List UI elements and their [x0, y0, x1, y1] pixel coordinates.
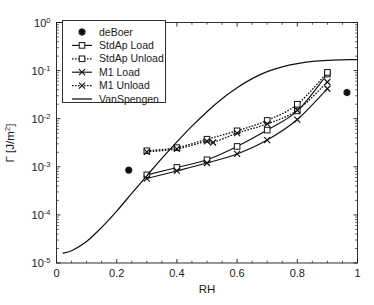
chart-canvas: 00.20.40.60.81 10-510-410-310-210-1100 R…	[0, 0, 374, 305]
data-point-marker	[294, 117, 300, 123]
data-point-marker	[125, 167, 132, 174]
data-point-marker	[79, 29, 86, 36]
y-axis-tick-labels: 10-510-410-310-210-1100	[32, 15, 51, 269]
data-point-marker	[79, 43, 85, 49]
data-point-marker	[234, 151, 240, 157]
x-tick-label: 0.2	[109, 267, 124, 279]
y-tick-label: 10-2	[32, 111, 51, 125]
legend-label: VanSpengen	[99, 93, 159, 105]
data-point-marker	[343, 89, 350, 96]
legend-label: deBoer	[99, 26, 133, 38]
chart-figure: 00.20.40.60.81 10-510-410-310-210-1100 R…	[0, 0, 374, 305]
data-point-marker	[324, 86, 330, 92]
x-tick-label: 0	[53, 267, 59, 279]
y-tick-label: 10-3	[32, 159, 51, 173]
data-point-marker	[325, 70, 331, 76]
x-axis-label: RH	[199, 283, 216, 295]
x-tick-label: 0.6	[229, 267, 244, 279]
data-point-marker	[234, 144, 240, 150]
x-tick-label: 0.8	[290, 267, 305, 279]
y-tick-label: 10-5	[32, 256, 51, 270]
data-point-marker	[264, 127, 270, 133]
series-path	[147, 74, 328, 175]
data-point-marker	[144, 148, 150, 154]
legend-label: M1 Unload	[99, 79, 150, 91]
legend-label: M1 Load	[99, 66, 140, 78]
y-tick-label: 10-1	[32, 63, 51, 77]
x-axis-tick-labels: 00.20.40.60.81	[53, 267, 360, 279]
y-tick-label: 10-4	[32, 207, 51, 221]
legend-label: StdAp Load	[99, 39, 154, 51]
data-point-marker	[79, 56, 85, 62]
series-stdap-unload	[144, 70, 330, 154]
data-point-marker	[324, 79, 330, 85]
data-point-marker	[295, 101, 301, 107]
legend-label: StdAp Unload	[99, 52, 164, 64]
x-tick-label: 0.4	[169, 267, 184, 279]
chart-legend: deBoerStdAp LoadStdAp UnloadM1 LoadM1 Un…	[63, 21, 166, 105]
data-point-marker	[264, 137, 270, 143]
y-tick-label: 100	[34, 15, 50, 29]
y-axis-label: Γ [J/m2]	[3, 124, 17, 163]
x-tick-label: 1	[354, 267, 360, 279]
